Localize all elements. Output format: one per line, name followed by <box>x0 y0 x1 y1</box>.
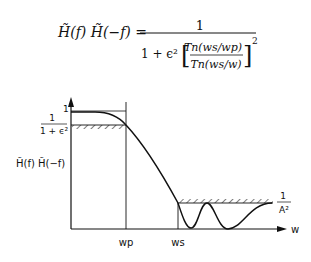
passband-level-denominator: 1 + ϵ² <box>40 126 69 136</box>
wp-label: wp <box>119 237 134 248</box>
x-axis-arrow-icon <box>277 226 287 232</box>
x-axis-label: w <box>291 224 299 235</box>
y-axis-label: H̃(f) H̃(−f) <box>16 157 65 169</box>
y-axis-arrow-icon <box>68 97 74 107</box>
equation-lhs: H̃(f) H̃(−f) = <box>57 23 147 40</box>
magnitude-response-plot: 1 1 1 + ϵ² H̃(f) H̃(−f) 1 A² w wp ws <box>0 80 311 262</box>
stopband-tolerance-hatch <box>178 199 273 203</box>
exponent: 2 <box>252 36 258 46</box>
equation-numerator: 1 <box>196 18 204 33</box>
response-curve <box>71 112 272 229</box>
passband-level-numerator: 1 <box>49 113 55 123</box>
ws-label: ws <box>171 237 184 248</box>
inner-denominator: Tn(ws/w) <box>190 58 241 71</box>
stopband-level-numerator: 1 <box>280 191 286 201</box>
chebyshev-equation: H̃(f) H̃(−f) = 1 1 + ϵ² [ Tn(ws/wp) Tn(w… <box>0 0 311 80</box>
passband-tolerance-hatch <box>72 125 126 129</box>
equation-denominator-prefix: 1 + ϵ² <box>141 47 178 61</box>
inner-numerator: Tn(ws/wp) <box>184 41 242 54</box>
stopband-level-denominator: A² <box>279 205 289 215</box>
y-tick-1: 1 <box>63 104 69 114</box>
right-bracket: ] <box>243 41 252 69</box>
